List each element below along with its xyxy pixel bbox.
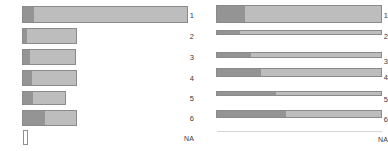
right-row-label-5: 5: [371, 96, 388, 104]
figure-canvas: 1 2 3 4: [0, 0, 388, 151]
right-row-2[interactable]: 2: [194, 30, 388, 38]
left-bar-1-light-segment: [34, 7, 187, 22]
left-row-2[interactable]: 2: [0, 28, 194, 44]
right-bar-2-light-segment: [240, 31, 381, 34]
left-bar-1-dark-segment: [23, 7, 34, 22]
left-row-3[interactable]: 3: [0, 49, 194, 65]
left-bar-5-dark-segment: [23, 92, 33, 104]
left-row-label-6: 6: [177, 115, 194, 123]
right-row-6[interactable]: 6: [194, 110, 388, 120]
right-row-5[interactable]: 5: [194, 91, 388, 99]
right-bar-6-light-segment: [286, 111, 381, 117]
right-bar-4-light-segment: [261, 69, 381, 76]
left-bar-1[interactable]: [22, 6, 188, 23]
right-bar-5-light-segment: [276, 92, 381, 95]
right-row-1[interactable]: 1: [194, 5, 388, 24]
left-bar-6-dark-segment: [23, 111, 45, 125]
right-bar-1-dark-segment: [217, 6, 245, 22]
right-bar-2[interactable]: [216, 30, 382, 35]
right-bar-5[interactable]: [216, 91, 382, 96]
left-row-5[interactable]: 5: [0, 91, 194, 105]
left-bar-4-light-segment: [32, 71, 76, 85]
right-bar-6-dark-segment: [217, 111, 286, 117]
left-row-na[interactable]: NA: [0, 130, 194, 146]
left-bar-3-dark-segment: [23, 50, 30, 64]
left-bar-4[interactable]: [22, 70, 77, 86]
left-row-1[interactable]: 1: [0, 6, 194, 23]
right-row-label-na: NA: [371, 136, 388, 143]
right-bar-2-dark-segment: [217, 31, 240, 34]
right-bar-1[interactable]: [216, 5, 382, 23]
left-row-label-na: NA: [177, 135, 194, 142]
right-bar-3[interactable]: [216, 52, 382, 58]
right-bar-5-dark-segment: [217, 92, 276, 95]
left-bar-5[interactable]: [22, 91, 66, 105]
left-bar-na[interactable]: [23, 130, 28, 145]
right-bar-na[interactable]: [217, 131, 382, 132]
left-bar-6[interactable]: [22, 110, 77, 126]
right-bar-3-light-segment: [251, 53, 381, 57]
right-bar-4-dark-segment: [217, 69, 261, 76]
left-bar-4-dark-segment: [23, 71, 32, 85]
right-row-4[interactable]: 4: [194, 68, 388, 79]
left-row-label-2: 2: [177, 33, 194, 41]
left-row-label-3: 3: [177, 54, 194, 62]
left-row-label-5: 5: [177, 95, 194, 103]
left-bar-5-light-segment: [33, 92, 65, 104]
left-row-6[interactable]: 6: [0, 110, 194, 126]
right-row-label-3: 3: [371, 58, 388, 66]
right-row-3[interactable]: 3: [194, 52, 388, 60]
left-row-4[interactable]: 4: [0, 70, 194, 86]
right-row-na[interactable]: NA: [194, 131, 388, 141]
right-bar-3-dark-segment: [217, 53, 251, 57]
right-panel: 1 2 3 4: [194, 0, 388, 151]
right-bar-6[interactable]: [216, 110, 382, 118]
left-bar-3[interactable]: [22, 49, 76, 65]
left-bar-2[interactable]: [22, 28, 77, 44]
left-row-label-4: 4: [177, 75, 194, 83]
right-bar-1-light-segment: [245, 6, 381, 22]
left-panel: 1 2 3 4: [0, 0, 194, 151]
right-bar-4[interactable]: [216, 68, 382, 77]
left-bar-3-light-segment: [30, 50, 75, 64]
left-bar-2-light-segment: [27, 29, 76, 43]
left-bar-6-light-segment: [45, 111, 76, 125]
